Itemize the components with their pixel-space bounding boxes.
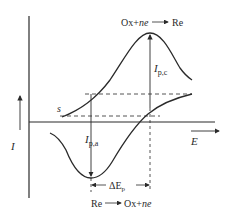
y-axis-label: I: [10, 140, 16, 152]
ip-c-label: Ip,c: [153, 62, 168, 77]
cathodic-reaction-label: Ox+ne: [121, 17, 149, 28]
anodic-reaction-reactant: Re: [91, 198, 103, 209]
cathodic-reaction-product: Re: [172, 17, 184, 28]
anodic-wave-curve: [50, 94, 192, 178]
delta-ep-label: ΔEp: [109, 180, 126, 193]
cyclic-voltammogram-diagram: I E s Ip,c Ip,a ΔEp Ox+ne Re Re Ox+ne: [0, 0, 233, 221]
cathodic-wave-curve: [62, 33, 192, 117]
anodic-reaction-product: Ox+ne: [124, 198, 152, 209]
x-axis-label: E: [190, 135, 198, 147]
start-point-label: s: [57, 103, 61, 114]
